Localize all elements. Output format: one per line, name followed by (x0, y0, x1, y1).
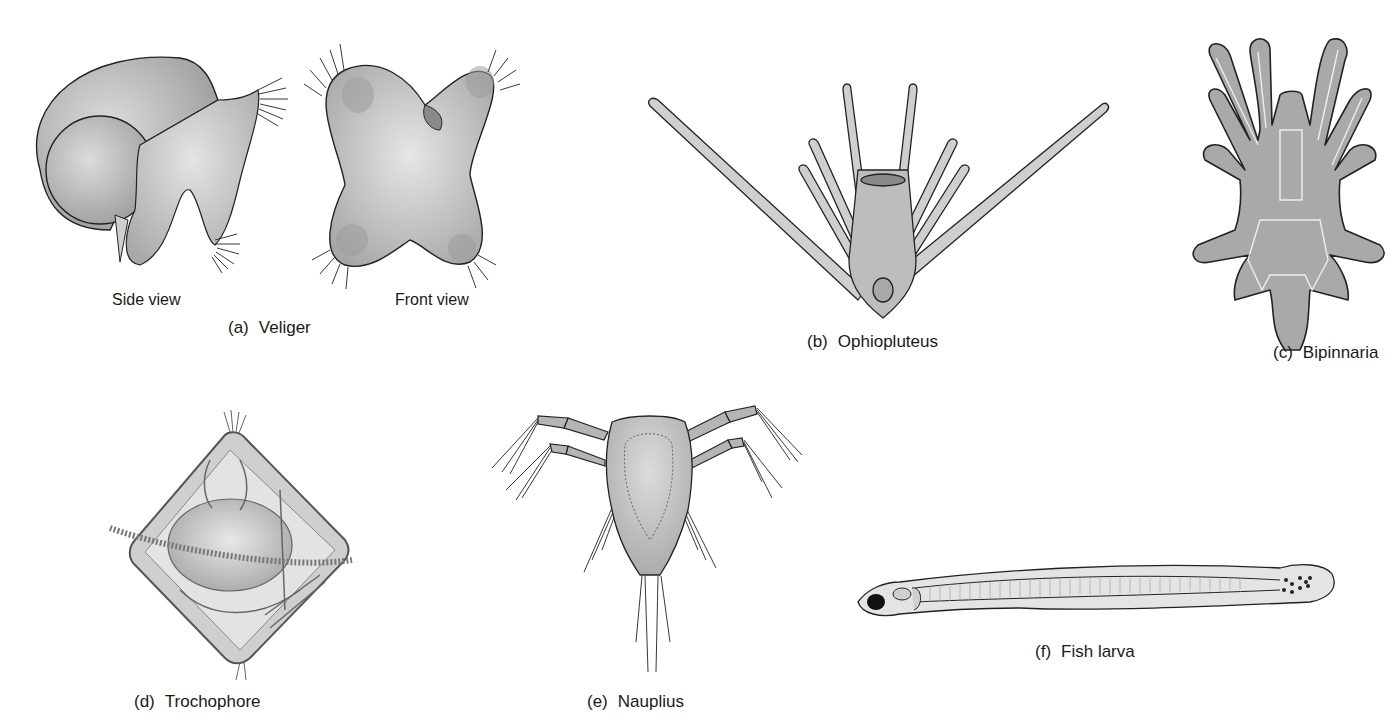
panel-letter: (e) (587, 692, 608, 711)
panel-label-fish-larva: (f)Fish larva (1035, 642, 1135, 662)
bipinnaria-illustration (1150, 0, 1394, 400)
panel-label-nauplius: (e)Nauplius (587, 692, 684, 712)
panel-bipinnaria: (c)Bipinnaria (1150, 0, 1394, 400)
nauplius-illustration (480, 400, 820, 725)
panel-label-ophiopluteus: (b)Ophiopluteus (807, 332, 938, 352)
panel-trochophore: (d)Trochophore (90, 400, 410, 725)
panel-letter: (c) (1273, 343, 1293, 362)
panel-letter: (b) (807, 332, 828, 351)
panel-name: Bipinnaria (1303, 343, 1379, 362)
panel-name: Ophiopluteus (838, 332, 938, 351)
panel-letter: (d) (134, 692, 155, 711)
panel-name: Trochophore (165, 692, 261, 711)
panel-fish-larva: (f)Fish larva (840, 550, 1394, 670)
panel-nauplius: (e)Nauplius (480, 400, 820, 725)
panel-name: Fish larva (1061, 642, 1135, 661)
panel-label-trochophore: (d)Trochophore (134, 692, 261, 712)
panel-name: Nauplius (618, 692, 684, 711)
panel-label-bipinnaria: (c)Bipinnaria (1273, 343, 1378, 363)
panel-letter: (f) (1035, 642, 1051, 661)
trochophore-illustration (90, 400, 410, 725)
